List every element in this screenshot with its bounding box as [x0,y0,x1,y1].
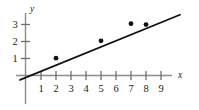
x-tick-label-4: 4 [83,83,89,94]
data-point [99,38,104,43]
x-tick-label-7: 7 [128,83,133,94]
x-axis-label: x [177,70,183,80]
x-tick-labels: 1 2 3 4 5 6 7 8 9 [38,83,163,94]
x-tick-label-8: 8 [143,83,148,94]
x-tick-label-1: 1 [38,83,43,94]
y-tick-label-1: 1 [12,53,17,64]
plot-canvas: 1 2 3 4 5 6 7 8 9 1 2 3 x y [0,0,199,110]
data-point [129,21,134,26]
y-tick-label-3: 3 [12,19,17,30]
x-tick-label-2: 2 [53,83,58,94]
x-tick-label-3: 3 [68,83,73,94]
scatter-plot-figure: 1 2 3 4 5 6 7 8 9 1 2 3 x y [0,0,199,110]
regression-line [20,15,180,80]
y-axis-label: y [29,4,35,14]
data-point [144,22,149,27]
x-tick-label-5: 5 [98,83,103,94]
x-tick-label-9: 9 [158,83,163,94]
data-point [54,56,59,61]
data-points-group [54,21,149,60]
x-tick-label-6: 6 [113,83,118,94]
y-tick-label-2: 2 [12,36,17,47]
y-tick-labels: 1 2 3 [12,19,17,64]
